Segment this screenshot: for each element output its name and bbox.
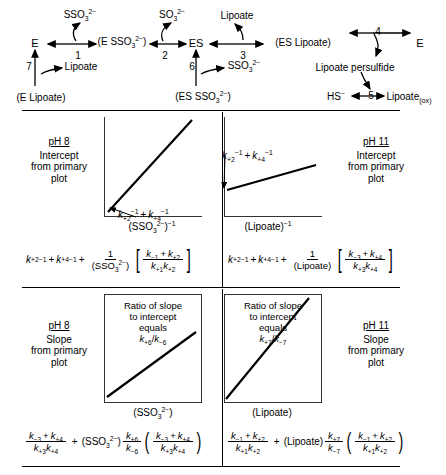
ph-label-slope-ph11: pH 11 (330, 320, 422, 332)
ph-label-slope-ph8: pH 8 (20, 320, 98, 332)
bracket-close-icon: ] (187, 252, 191, 268)
xaxis-label-slope-ph11: (Lipoate) (252, 408, 291, 418)
ratio-line3: equals (259, 322, 287, 333)
divider-bottom (22, 466, 400, 467)
fraction-k7-ratio: k+7 k−7 (325, 430, 343, 453)
figure-canvas: E (E SSO32−) ES (ES Lipoate) E SSO32− SO… (0, 0, 446, 475)
scheme-arrows (0, 0, 446, 110)
divider-top (22, 110, 400, 111)
fraction-inverse-lipoate: 1 (Lipoate) (291, 248, 335, 271)
paren-open-icon: ( (145, 434, 150, 448)
ratio-line2: to intercept (250, 311, 297, 322)
panel-line2: from primary (31, 345, 87, 356)
panel-line2: from primary (348, 161, 404, 172)
ratio-line1: Ratio of slope (124, 300, 182, 311)
intercept-annotation-ph8: k+2−1+k+4−1 (118, 210, 169, 220)
xaxis-label-intercept-ph8: (SSO32−)−1 (128, 222, 175, 232)
paren-close-icon: ) (196, 434, 201, 448)
equation-slope-ph11: k−1+k+2 k+1k+2 + (Lipoate) k+7 k−7 ( k−1… (226, 430, 405, 453)
fraction-slope-ph11-first: k−1+k+2 k+1k+2 (228, 430, 268, 453)
fraction-bracket-ph11: k−3+k+4 k+3k+4 (345, 248, 385, 271)
panel-line2: from primary (31, 161, 87, 172)
fraction-slope-ph8-paren: k−3+k+4 k+3k+4 (153, 430, 193, 453)
reaction-scheme: E (E SSO32−) ES (ES Lipoate) E SSO32− SO… (0, 0, 446, 110)
bracket-open-icon: [ (136, 252, 140, 268)
panel-line1: Intercept (357, 150, 396, 161)
ratio-line2: to intercept (130, 311, 177, 322)
ph-label-intercept-ph8: pH 8 (20, 136, 98, 148)
ratio-line1: Ratio of slope (244, 300, 302, 311)
ratio-expression: k+7/k−7 (260, 333, 287, 344)
panel-line1: Slope (46, 334, 72, 345)
panel-label-slope-ph11: pH 11 Slope from primary plot (330, 320, 422, 368)
ratio-expression: k+6/k−6 (140, 333, 167, 344)
panel-line2: from primary (348, 345, 404, 356)
ratio-line3: equals (139, 322, 167, 333)
fraction-k6-ratio: k+6 k−6 (123, 430, 141, 453)
panel-line3: plot (368, 357, 384, 368)
xaxis-label-slope-ph8: (SSO32−) (133, 408, 172, 418)
equation-intercept-ph11: k+2−1 + k+4−1 + 1 (Lipoate) [ k−3+k+4 k+… (228, 248, 394, 271)
fraction-slope-ph8-first: k−3+k+4 k+3k+4 (26, 430, 66, 453)
xaxis-label-intercept-ph11: (Lipoate)−1 (244, 222, 291, 232)
equation-intercept-ph8: k+2−1 + k+4−1 + 1 (SSO32−) [ k−1+k+2 k+1… (26, 248, 192, 271)
panel-line1: Intercept (40, 150, 79, 161)
panel-label-intercept-ph11: pH 11 Intercept from primary plot (330, 136, 422, 184)
bracket-close-icon: ] (389, 252, 393, 268)
paren-open-icon: ( (347, 434, 352, 448)
paren-close-icon: ) (399, 434, 404, 448)
panel-label-intercept-ph8: pH 8 Intercept from primary plot (20, 136, 98, 184)
equation-slope-ph8: k−3+k+4 k+3k+4 + (SSO32−) k+6 k−6 ( k−3+… (24, 430, 203, 453)
fraction-bracket-ph8: k−1+k+2 k+1k+2 (143, 248, 183, 271)
divider-vertical-lower (222, 289, 223, 466)
bracket-open-icon: [ (338, 252, 342, 268)
panel-line1: Slope (363, 334, 389, 345)
fraction-inverse-sulfite: 1 (SSO32−) (89, 248, 132, 271)
panel-line3: plot (51, 357, 67, 368)
concentration-lipoate: (Lipoate) (284, 436, 323, 447)
divider-middle (22, 287, 400, 288)
ratio-label-slope-ph11: Ratio of slope to intercept equals k+7/k… (226, 300, 320, 344)
ratio-label-slope-ph8: Ratio of slope to intercept equals k+6/k… (106, 300, 200, 344)
panel-label-slope-ph8: pH 8 Slope from primary plot (20, 320, 98, 368)
fraction-slope-ph11-paren: k−1+k+2 k+1k+2 (355, 430, 395, 453)
panel-line3: plot (51, 173, 67, 184)
ph-label-intercept-ph11: pH 11 (330, 136, 422, 148)
concentration-sulfite: (SSO32−) (82, 436, 121, 447)
intercept-annotation-ph11: k+2−1+k+4−1 (222, 151, 273, 161)
panel-line3: plot (368, 173, 384, 184)
